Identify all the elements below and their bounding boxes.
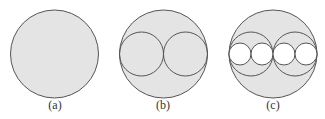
inner-circle xyxy=(273,43,295,65)
inner-circle xyxy=(251,43,273,65)
inner-circle xyxy=(229,43,251,65)
inner-circle xyxy=(295,43,317,65)
outer-circle xyxy=(11,10,99,98)
panel-c xyxy=(229,10,317,98)
panel-a xyxy=(11,10,99,98)
panel-label-a: (a) xyxy=(48,98,61,113)
panel-label-b: (b) xyxy=(156,98,170,113)
panel-label-c: (c) xyxy=(266,98,279,113)
panel-b xyxy=(120,10,208,98)
